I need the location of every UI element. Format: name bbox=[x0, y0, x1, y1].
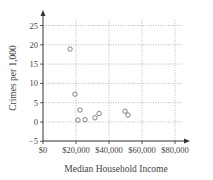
x-axis-arrow-icon bbox=[184, 139, 190, 144]
y-axis-title: Crimes per 1,000 bbox=[8, 45, 18, 111]
x-tick-label: $20,000 bbox=[62, 145, 90, 155]
data-point-marker bbox=[78, 108, 82, 112]
y-tick-label: −5 bbox=[29, 136, 38, 146]
grid-lines bbox=[43, 20, 182, 141]
x-tick-label: $60,000 bbox=[128, 145, 156, 155]
data-point-marker bbox=[97, 111, 101, 115]
y-ticks: −50510152025 bbox=[29, 21, 43, 147]
y-tick-label: 25 bbox=[30, 21, 39, 31]
y-tick-label: 20 bbox=[30, 40, 39, 50]
data-point-marker bbox=[123, 109, 127, 113]
data-point-marker bbox=[83, 117, 87, 121]
data-point-marker bbox=[73, 92, 77, 96]
data-points bbox=[68, 47, 130, 122]
x-ticks: $0$20,000$40,000$60,000$80,000 bbox=[39, 141, 189, 155]
y-axis-arrow-icon bbox=[41, 10, 46, 16]
scatter-chart: −50510152025 $0$20,000$40,000$60,000$80,… bbox=[0, 0, 213, 180]
y-tick-label: 15 bbox=[30, 59, 39, 69]
x-axis-title: Median Household Income bbox=[64, 164, 167, 174]
y-tick-label: 5 bbox=[34, 98, 38, 108]
x-tick-label: $80,000 bbox=[161, 145, 189, 155]
data-point-marker bbox=[76, 118, 80, 122]
x-tick-label: $40,000 bbox=[95, 145, 123, 155]
data-point-marker bbox=[68, 47, 72, 51]
data-point-marker bbox=[93, 116, 97, 120]
axes bbox=[41, 10, 191, 144]
y-tick-label: 0 bbox=[34, 117, 38, 127]
x-tick-label: $0 bbox=[39, 145, 48, 155]
data-point-marker bbox=[126, 113, 130, 117]
y-tick-label: 10 bbox=[30, 78, 39, 88]
